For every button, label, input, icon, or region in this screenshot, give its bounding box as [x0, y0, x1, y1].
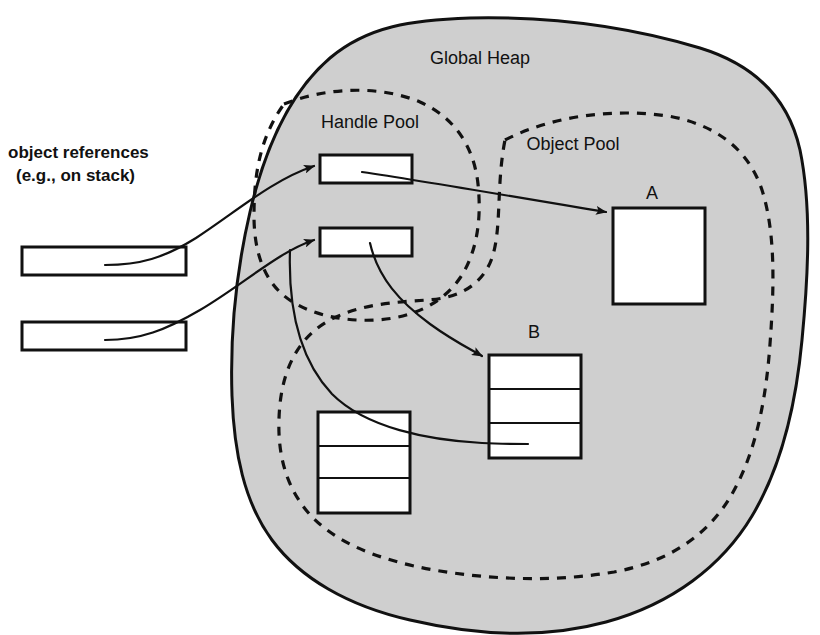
handle-2 [320, 228, 412, 256]
object-pool-label: Object Pool [526, 134, 619, 154]
stack-slot-1 [22, 247, 186, 275]
stack-slot-2 [22, 322, 186, 350]
handle-1 [320, 155, 412, 183]
object-unlabeled [318, 412, 410, 513]
stack-caption-line1: object references [8, 143, 149, 162]
object-b-label: B [528, 322, 540, 342]
stack-caption: object references (e.g., on stack) [8, 143, 149, 185]
global-heap-outline [232, 18, 808, 633]
heap-diagram-svg: Global Heap Handle Pool Object Pool obje… [0, 0, 820, 635]
region-global-heap: Global Heap [232, 18, 808, 633]
global-heap-label: Global Heap [430, 48, 530, 68]
stack-caption-line2: (e.g., on stack) [16, 166, 135, 185]
handle-pool-label: Handle Pool [321, 112, 419, 132]
diagram-canvas: Global Heap Handle Pool Object Pool obje… [0, 0, 820, 635]
object-a-label: A [646, 183, 658, 203]
